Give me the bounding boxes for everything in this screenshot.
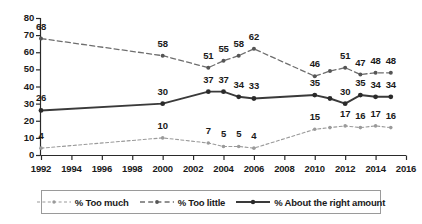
data-point-about_right xyxy=(373,94,378,99)
y-tick-label: 60 xyxy=(6,46,34,57)
legend-label-about-right: % About the right amount xyxy=(274,197,385,208)
data-point-too_much xyxy=(359,126,363,130)
line-chart: 01020304050607080 1992199419961998200020… xyxy=(0,0,422,224)
data-point-about_right xyxy=(39,108,44,113)
data-point-about_right xyxy=(221,89,226,94)
x-tick-marks xyxy=(42,156,407,161)
data-point-too_little xyxy=(358,73,362,77)
data-label-too_little: 48 xyxy=(377,55,405,66)
data-label-too_little: 68 xyxy=(27,21,55,32)
data-label-too_much: 10 xyxy=(149,120,177,131)
data-point-too_much xyxy=(328,126,332,130)
data-point-too_much xyxy=(389,126,393,130)
data-point-too_little xyxy=(161,54,165,58)
data-point-too_much xyxy=(313,128,317,132)
data-label-too_much: 15 xyxy=(301,111,329,122)
legend-item-too-much[interactable]: % Too much xyxy=(37,197,129,208)
data-point-too_little xyxy=(237,54,241,58)
data-point-too_much xyxy=(374,124,378,128)
data-point-too_much xyxy=(252,146,256,150)
data-point-too_much xyxy=(206,141,210,145)
dashed-light-line-marker-icon xyxy=(37,197,71,207)
data-point-too_little xyxy=(374,71,378,75)
data-label-about_right: 34 xyxy=(377,79,405,90)
data-point-too_little xyxy=(39,37,43,41)
data-label-too_little: 62 xyxy=(240,31,268,42)
data-point-too_much xyxy=(343,124,347,128)
data-label-about_right: 30 xyxy=(149,86,177,97)
x-tick-label: 2016 xyxy=(384,163,422,174)
legend-label-too-little: % Too little xyxy=(178,197,226,208)
y-tick-label: 0 xyxy=(6,149,34,160)
dashed-dark-line-marker-icon xyxy=(140,197,174,207)
data-point-about_right xyxy=(236,94,241,99)
data-point-about_right xyxy=(328,96,333,101)
data-point-too_much xyxy=(222,145,226,149)
data-point-about_right xyxy=(252,96,257,101)
data-point-about_right xyxy=(388,94,393,99)
data-label-too_little: 58 xyxy=(149,38,177,49)
data-point-about_right xyxy=(343,101,348,106)
y-tick-label: 20 xyxy=(6,115,34,126)
solid-dark-line-marker-icon xyxy=(236,197,270,207)
data-point-too_little xyxy=(328,69,332,73)
data-label-about_right: 33 xyxy=(240,80,268,91)
y-tick-label: 40 xyxy=(6,81,34,92)
data-point-too_much xyxy=(39,146,43,150)
legend-label-too-much: % Too much xyxy=(75,197,129,208)
data-point-about_right xyxy=(206,89,211,94)
data-point-too_little xyxy=(389,71,393,75)
chart-legend: % Too much % Too little % About the righ… xyxy=(41,190,381,214)
data-point-too_much xyxy=(237,145,241,149)
data-label-too_much: 4 xyxy=(240,130,268,141)
legend-item-about-right[interactable]: % About the right amount xyxy=(236,197,385,208)
data-label-about_right: 35 xyxy=(301,77,329,88)
data-point-too_much xyxy=(161,136,165,140)
data-point-about_right xyxy=(312,93,317,98)
data-label-too_much: 16 xyxy=(377,110,405,121)
data-label-about_right: 26 xyxy=(27,92,55,103)
data-point-about_right xyxy=(160,101,165,106)
y-tick-label: 50 xyxy=(6,63,34,74)
data-label-too_little: 46 xyxy=(301,58,329,69)
data-point-too_little xyxy=(206,66,210,70)
legend-item-too-little[interactable]: % Too little xyxy=(140,197,226,208)
data-label-too_much: 4 xyxy=(27,130,55,141)
